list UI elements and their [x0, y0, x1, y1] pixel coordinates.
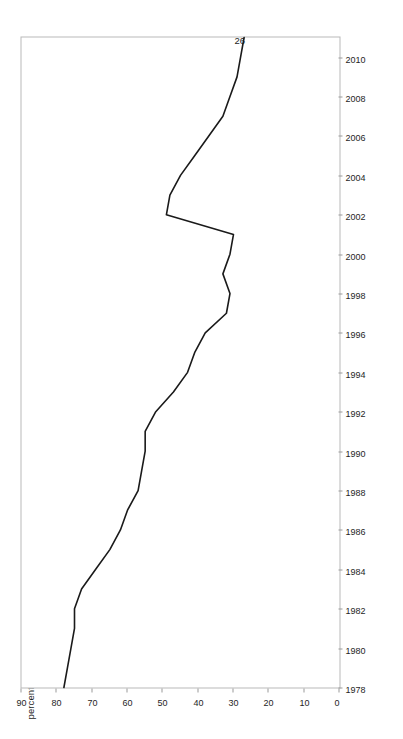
x-tick — [338, 372, 342, 373]
x-tick — [338, 648, 342, 649]
x-tick — [338, 332, 342, 333]
x-tick-label: 2010 — [345, 54, 365, 64]
y-tick — [20, 688, 21, 692]
x-tick-label: 1994 — [345, 369, 365, 379]
y-tick — [197, 688, 198, 692]
y-tick-label: 20 — [263, 697, 273, 707]
y-tick-label: 0 — [334, 697, 339, 707]
x-tick-label: 1998 — [345, 290, 365, 300]
x-tick-label: 1996 — [345, 329, 365, 339]
end-point-label: 26 — [234, 34, 245, 45]
x-tick — [338, 490, 342, 491]
x-tick — [338, 569, 342, 570]
x-tick-label: 1990 — [345, 448, 365, 458]
x-tick — [338, 529, 342, 530]
x-tick-label: 2008 — [345, 93, 365, 103]
x-tick — [338, 57, 342, 58]
x-tick-label: 1984 — [345, 566, 365, 576]
y-tick-label: 30 — [228, 697, 238, 707]
y-tick — [338, 688, 339, 692]
x-tick-label: 1980 — [345, 645, 365, 655]
x-tick-label: 2002 — [345, 211, 365, 221]
x-tick — [338, 136, 342, 137]
x-tick — [338, 175, 342, 176]
x-tick — [338, 254, 342, 255]
y-tick — [55, 688, 56, 692]
x-tick-label: 1988 — [345, 487, 365, 497]
y-tick-label: 40 — [193, 697, 203, 707]
x-tick-label: 2006 — [345, 133, 365, 143]
x-tick-label: 1978 — [345, 684, 365, 694]
x-tick — [338, 293, 342, 294]
y-tick-label: 10 — [299, 697, 309, 707]
y-tick — [303, 688, 304, 692]
y-tick-label: 60 — [122, 697, 132, 707]
plot-area — [20, 36, 340, 688]
y-tick-label: 80 — [51, 697, 61, 707]
x-tick-label: 1992 — [345, 408, 365, 418]
y-tick — [161, 688, 162, 692]
x-tick — [338, 608, 342, 609]
y-tick-label: 90 — [16, 697, 26, 707]
y-tick — [267, 688, 268, 692]
x-tick — [338, 96, 342, 97]
data-line — [21, 35, 341, 687]
x-tick-label: 2000 — [345, 251, 365, 261]
y-tick-label: 50 — [157, 697, 167, 707]
x-tick — [338, 214, 342, 215]
y-tick-label: 70 — [87, 697, 97, 707]
y-tick — [126, 688, 127, 692]
y-tick — [91, 688, 92, 692]
x-tick-label: 2004 — [345, 172, 365, 182]
x-tick-label: 1986 — [345, 526, 365, 536]
x-tick — [338, 411, 342, 412]
y-tick — [232, 688, 233, 692]
x-tick-label: 1982 — [345, 605, 365, 615]
chart-figure: percent of total gross industrial output… — [0, 0, 403, 739]
x-tick — [338, 451, 342, 452]
